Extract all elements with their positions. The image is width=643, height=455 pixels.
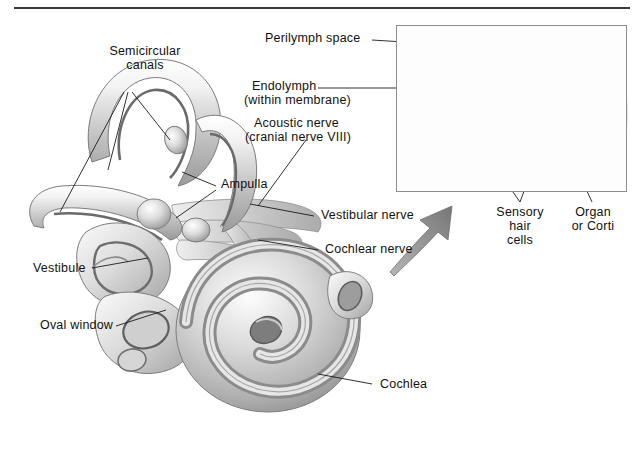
label-organ-or-corti: Organ or Corti (562, 205, 624, 233)
label-oval-window: Oval window (40, 318, 113, 332)
label-semicircular-canals: Semicircular canals (99, 44, 191, 72)
label-sensory-hair-cells: Sensory hair cells (488, 205, 552, 247)
label-cochlear-nerve: Cochlear nerve (325, 242, 413, 256)
label-perilymph-space: Perilymph space (265, 31, 360, 45)
label-vestibule: Vestibule (33, 261, 86, 275)
label-vestibular-nerve: Vestibular nerve (321, 208, 414, 222)
inset-panel-frame (396, 25, 627, 192)
label-acoustic-nerve: Acoustic nerve (254, 116, 339, 130)
label-cochlea: Cochlea (380, 377, 427, 391)
cochlea (176, 245, 373, 412)
label-endolymph: Endolymph (252, 79, 316, 93)
label-acoustic-nerve-sub: (cranial nerve VIII) (245, 130, 351, 144)
label-endolymph-sub: (within membrane) (244, 93, 351, 107)
anatomy-figure: Semicircular canals Perilymph space Endo… (0, 0, 643, 455)
label-ampulla: Ampulla (221, 177, 268, 191)
